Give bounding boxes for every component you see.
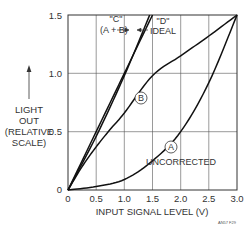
y-axis-label-1: LIGHT [15, 104, 43, 115]
svg-text:2.5: 2.5 [202, 193, 215, 204]
svg-text:0: 0 [57, 184, 62, 195]
label-uncorrected: UNCORRECTED [146, 157, 217, 167]
x-tick-labels: 0 0.5 1.0 1.5 2.0 2.5 3.0 [65, 193, 243, 204]
y-axis-arrow [27, 65, 32, 99]
y-axis-label-2: OUT [19, 115, 39, 126]
label-c-sub: (A + B) [100, 25, 128, 35]
marker-a: A [168, 142, 174, 152]
y-tick-labels: 0 0.5 1.0 1.5 [49, 10, 62, 195]
y-axis-label-4: SCALE) [12, 137, 46, 148]
svg-text:0: 0 [65, 193, 70, 204]
svg-text:1.0: 1.0 [49, 68, 62, 79]
chart: "C" (A + B) "D" IDEAL B A UNCORRECTED 0 … [0, 0, 250, 228]
marker-b: B [138, 93, 144, 103]
label-c: "C" [110, 14, 123, 24]
y-axis-label-3: (RELATIVE [5, 126, 53, 137]
x-axis-label: INPUT SIGNAL LEVEL (V) [96, 206, 209, 217]
svg-text:1.0: 1.0 [118, 193, 131, 204]
svg-text:0.5: 0.5 [90, 193, 103, 204]
svg-text:1.5: 1.5 [146, 193, 159, 204]
label-d: "D" [157, 16, 170, 26]
svg-text:3.0: 3.0 [230, 193, 243, 204]
svg-text:2.0: 2.0 [174, 193, 187, 204]
figure-tag: AN57 F29 [218, 220, 237, 225]
svg-text:1.5: 1.5 [49, 10, 62, 21]
label-d-sub: IDEAL [150, 26, 176, 36]
